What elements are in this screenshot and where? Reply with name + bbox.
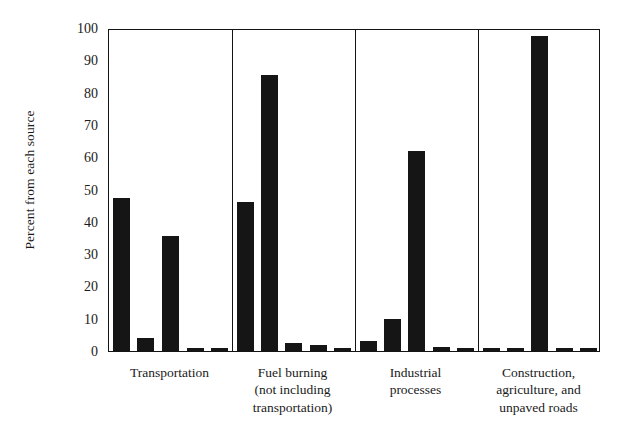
bar	[334, 348, 351, 351]
bar-group	[232, 30, 355, 351]
bar	[556, 348, 573, 351]
x-axis-category-label: Construction,agriculture, andunpaved roa…	[477, 356, 600, 426]
x-axis-category-labels: TransportationFuel burning(not including…	[108, 356, 600, 426]
bar	[360, 341, 377, 351]
bar	[310, 345, 327, 351]
plot-area	[108, 29, 600, 352]
bar	[237, 202, 254, 351]
bar	[384, 319, 401, 351]
bar-chart-figure: Percent from each source 010203040506070…	[0, 0, 632, 427]
y-axis-tick-label: 70	[84, 119, 98, 133]
x-axis-category-label-line: Construction,	[477, 364, 600, 381]
x-axis-category-label-line: agriculture, and	[477, 381, 600, 398]
bar	[531, 36, 548, 351]
y-axis-tick-label: 20	[84, 280, 98, 294]
x-axis-category-label-line: transportation)	[231, 399, 354, 416]
bar	[137, 338, 154, 351]
x-axis-category-label: Fuel burning(not includingtransportation…	[231, 356, 354, 426]
bar-group	[478, 30, 601, 351]
x-axis-category-label-line: (not including	[231, 381, 354, 398]
bar	[433, 347, 450, 351]
x-axis-category-label-line: processes	[354, 381, 477, 398]
bar-group	[355, 30, 478, 351]
x-axis-category-label-line: Transportation	[108, 364, 231, 381]
x-axis-category-label-line: Fuel burning	[231, 364, 354, 381]
bar	[211, 348, 228, 351]
y-axis-title: Percent from each source	[0, 0, 60, 360]
y-axis-tick-label: 90	[84, 54, 98, 68]
bar	[187, 348, 204, 351]
bar	[408, 151, 425, 351]
x-axis-category-label: Industrialprocesses	[354, 356, 477, 426]
y-axis-tick-label: 10	[84, 313, 98, 327]
bar	[261, 75, 278, 351]
y-axis-tick-label: 100	[77, 22, 98, 36]
y-axis-tick-label: 50	[84, 184, 98, 198]
bar-group	[109, 30, 232, 351]
bar	[285, 343, 302, 351]
y-axis-tick-label: 40	[84, 216, 98, 230]
bar	[507, 348, 524, 351]
bar	[580, 348, 597, 351]
y-axis-tick-label: 30	[84, 248, 98, 262]
bar	[113, 198, 130, 351]
y-axis-tick-label: 80	[84, 87, 98, 101]
x-axis-category-label-line: Industrial	[354, 364, 477, 381]
x-axis-category-label: Transportation	[108, 356, 231, 426]
bar	[162, 236, 179, 351]
y-axis-tick-labels: 0102030405060708090100	[60, 29, 104, 352]
bar	[483, 348, 500, 351]
y-axis-tick-label: 60	[84, 151, 98, 165]
y-axis-tick-label: 0	[91, 345, 98, 359]
bar	[457, 348, 474, 351]
y-axis-title-text: Percent from each source	[22, 110, 38, 249]
plot-inner	[109, 30, 599, 351]
x-axis-category-label-line: unpaved roads	[477, 399, 600, 416]
